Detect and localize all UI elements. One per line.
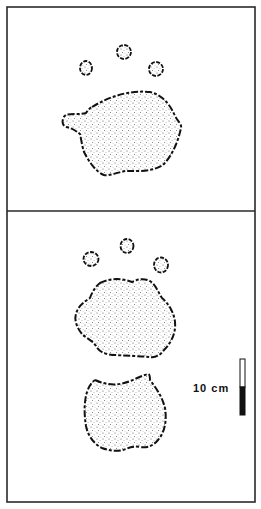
heel-pad bbox=[85, 374, 166, 451]
scale-bar-white-segment bbox=[240, 359, 245, 387]
main-pad bbox=[75, 279, 175, 357]
scale-bar-label: 10 cm bbox=[193, 382, 229, 394]
track-figure: 10 cm bbox=[0, 0, 261, 509]
top-panel bbox=[63, 45, 182, 175]
toe-pad-left bbox=[80, 61, 92, 75]
scale-bar: 10 cm bbox=[193, 359, 245, 415]
toe-pad-right bbox=[154, 258, 168, 273]
toe-pad-left bbox=[84, 252, 99, 266]
toe-pad-center bbox=[121, 239, 134, 253]
main-pad bbox=[63, 92, 182, 176]
toe-pad-center bbox=[117, 45, 131, 59]
bottom-panel bbox=[75, 239, 175, 451]
scale-bar-black-segment bbox=[240, 387, 245, 415]
toe-pad-right bbox=[149, 62, 163, 76]
